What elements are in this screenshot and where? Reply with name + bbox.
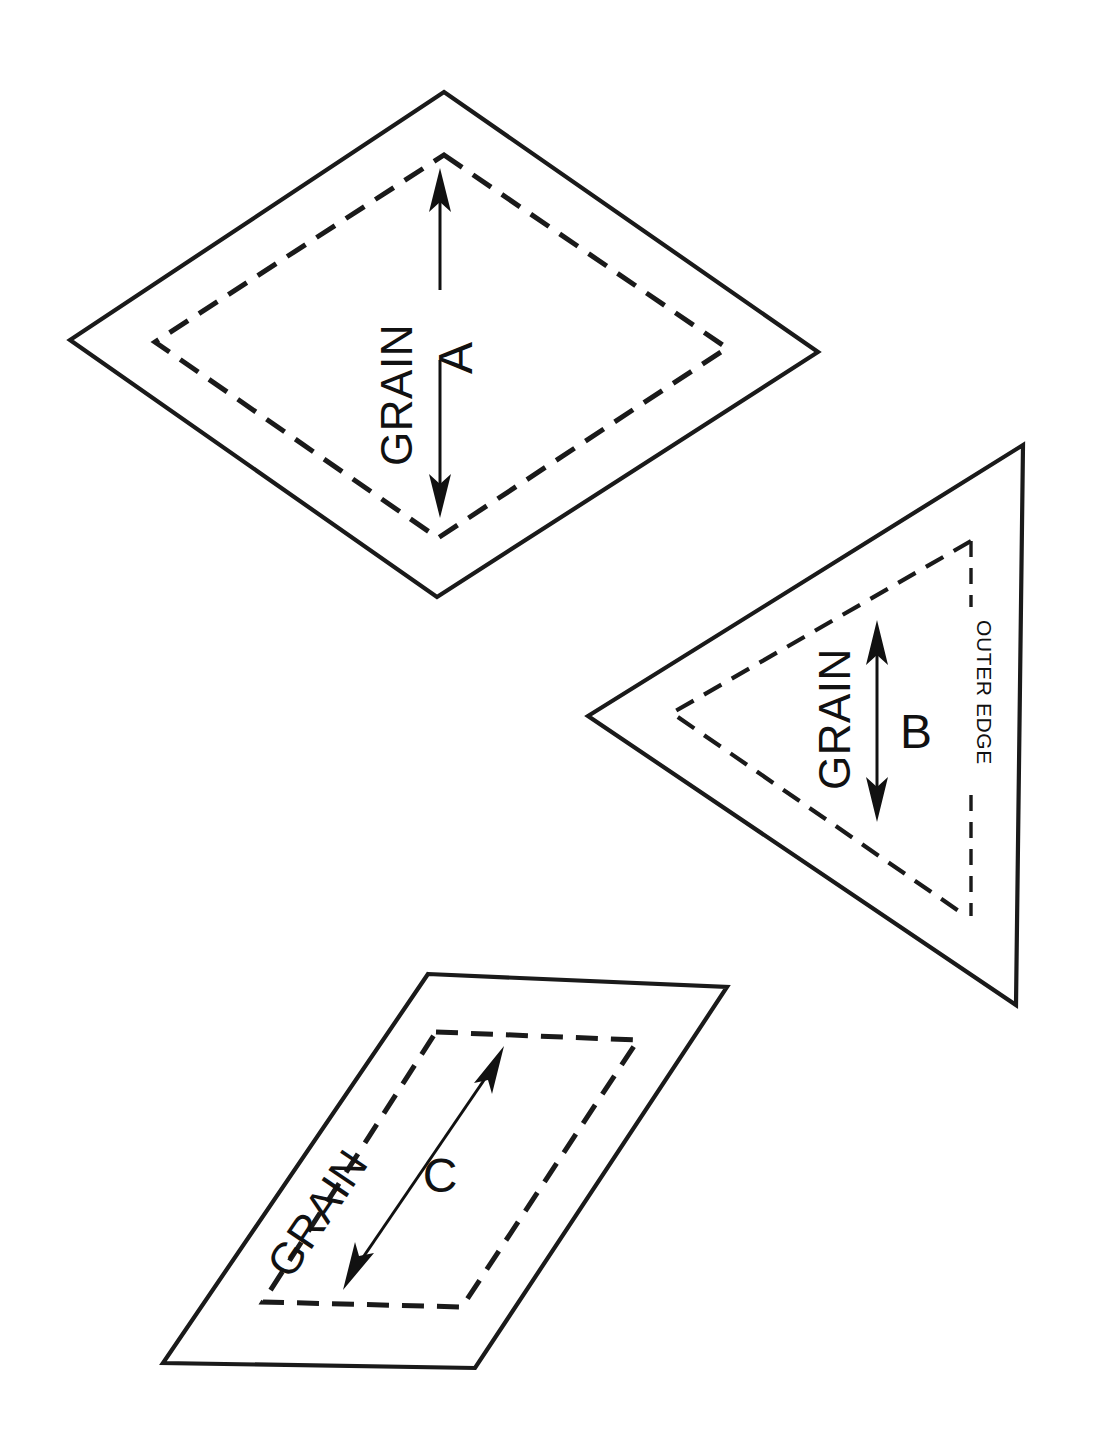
pattern-piece-a: GRAIN A bbox=[70, 92, 818, 597]
piece-b-cut-line bbox=[588, 445, 1023, 1005]
piece-b-grain-label: GRAIN bbox=[810, 648, 859, 790]
pattern-piece-b: GRAIN B OUTER EDGE bbox=[588, 445, 1023, 1005]
piece-b-label: B bbox=[900, 705, 932, 758]
piece-b-outer-edge-label: OUTER EDGE bbox=[973, 620, 996, 765]
piece-b-grain-arrow bbox=[866, 620, 888, 822]
pattern-diagram: GRAIN A GRAIN B OUTER EDGE bbox=[0, 0, 1095, 1445]
piece-a-label: A bbox=[429, 342, 482, 374]
pattern-sheet: GRAIN A GRAIN B OUTER EDGE bbox=[0, 0, 1095, 1445]
piece-c-label: C bbox=[423, 1149, 458, 1202]
piece-a-grain-label: GRAIN bbox=[372, 324, 421, 466]
pattern-piece-c: GRAIN C bbox=[163, 974, 727, 1368]
